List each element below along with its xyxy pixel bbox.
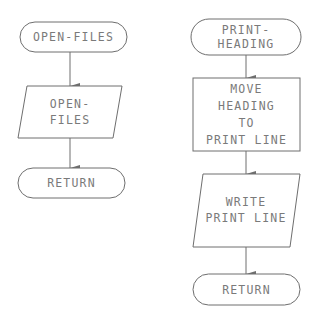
node-label: PRINT LINE — [206, 133, 287, 147]
node-label: TO — [238, 116, 254, 130]
node-label: OPEN-FILES — [33, 30, 114, 44]
open-files-start-terminal: OPEN-FILES — [20, 22, 127, 52]
node-label: HEADING — [218, 37, 275, 51]
node-label: RETURN — [222, 283, 271, 297]
node-label: FILES — [50, 113, 91, 127]
node-label: MOVE — [230, 82, 263, 96]
node-label: RETURN — [47, 176, 96, 190]
flowchart-diagram: OPEN-FILES OPEN- FILES RETURN PRINT- HEA… — [0, 0, 318, 325]
open-files-flowchart: OPEN-FILES OPEN- FILES RETURN — [18, 22, 127, 198]
node-label: PRINT LINE — [205, 211, 286, 225]
node-label: PRINT- — [222, 23, 271, 37]
node-label: HEADING — [218, 99, 275, 113]
node-label: OPEN- — [50, 97, 91, 111]
write-print-line-io-parallelogram: WRITE PRINT LINE — [193, 174, 300, 247]
open-files-return-terminal: RETURN — [18, 168, 125, 198]
node-label: WRITE — [226, 195, 267, 209]
print-heading-start-terminal: PRINT- HEADING — [191, 19, 301, 55]
open-files-io-parallelogram: OPEN- FILES — [18, 86, 122, 138]
print-heading-flowchart: PRINT- HEADING MOVE HEADING TO PRINT LIN… — [191, 19, 301, 305]
move-heading-process-box: MOVE HEADING TO PRINT LINE — [193, 78, 300, 151]
print-heading-return-terminal: RETURN — [193, 274, 300, 305]
